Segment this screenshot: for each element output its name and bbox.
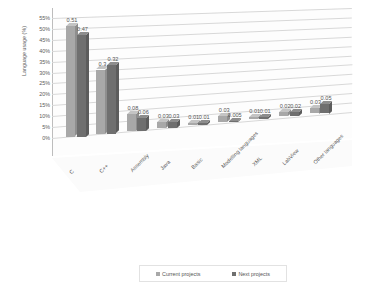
bar-front-face bbox=[188, 123, 197, 125]
bar-value-label: 0.03 bbox=[168, 113, 179, 119]
y-axis-tick-label: 40% bbox=[39, 48, 50, 54]
bar-value-label: 0.01 bbox=[188, 114, 199, 120]
y-axis-tick-label: 10% bbox=[39, 113, 50, 119]
y-axis-tick-label: 0% bbox=[42, 135, 50, 141]
bar-value-label: 0.02 bbox=[280, 103, 291, 109]
bar-value-label: 0.01 bbox=[249, 108, 260, 114]
y-axis-tick-label: 35% bbox=[39, 59, 50, 65]
bar-value-label: 0.01 bbox=[260, 108, 271, 114]
bar-front-face bbox=[218, 116, 227, 122]
bar-value-label: 0.01 bbox=[199, 114, 210, 120]
bar-side-face bbox=[146, 115, 149, 131]
bar-side-face bbox=[86, 32, 89, 137]
bar-front-face bbox=[320, 104, 329, 114]
bar-front-face bbox=[259, 117, 268, 119]
y-axis-tick-label: 5% bbox=[42, 124, 50, 130]
legend-item[interactable]: Current projects bbox=[156, 271, 200, 277]
bar-front-face bbox=[107, 65, 116, 133]
bar-value-label: 0.08 bbox=[127, 105, 138, 111]
bar-value-label: 0.32 bbox=[107, 56, 118, 62]
bar-value-label: 0.47 bbox=[77, 26, 88, 32]
bar-front-face bbox=[198, 123, 207, 125]
bar-value-label: 0.005 bbox=[228, 112, 242, 118]
bar-front-face bbox=[279, 112, 288, 116]
y-axis-tick-label: 30% bbox=[39, 70, 50, 76]
bar-front-face bbox=[66, 26, 75, 136]
bar-front-face bbox=[77, 35, 86, 137]
y-axis-tick-label: 20% bbox=[39, 91, 50, 97]
legend-item[interactable]: Next projects bbox=[232, 271, 269, 277]
bar-value-label: 0.03 bbox=[158, 113, 169, 119]
bar-front-face bbox=[249, 117, 258, 119]
legend-label: Current projects bbox=[162, 271, 200, 277]
y-axis-ticks: 0%5%10%15%20%25%30%35%40%45%50%55% bbox=[24, 8, 50, 156]
bar-front-face bbox=[290, 112, 299, 116]
bar-value-label: 0.02 bbox=[290, 103, 301, 109]
bar-value-label: 0.06 bbox=[138, 109, 149, 115]
bar-front-face bbox=[157, 122, 166, 128]
y-axis-tick-label: 45% bbox=[39, 37, 50, 43]
y-axis-tick-label: 55% bbox=[39, 15, 50, 21]
bar-front-face bbox=[168, 122, 177, 128]
y-axis-tick-label: 25% bbox=[39, 80, 50, 86]
y-axis-tick-label: 50% bbox=[39, 26, 50, 32]
bar-value-label: 0.05 bbox=[321, 95, 332, 101]
bar-value-label: 0.51 bbox=[67, 17, 78, 23]
bar-front-face bbox=[310, 108, 319, 114]
legend-swatch bbox=[156, 272, 160, 276]
legend-swatch bbox=[232, 272, 236, 276]
legend-label: Next projects bbox=[238, 271, 269, 277]
y-axis-tick-label: 15% bbox=[39, 102, 50, 108]
bar-value-label: 0.3 bbox=[99, 61, 107, 67]
chart-legend: Current projectsNext projects bbox=[139, 265, 287, 282]
bar-front-face bbox=[127, 114, 136, 131]
bar-side-face bbox=[116, 62, 119, 133]
bar-chart: Language usage (%) 0%5%10%15%20%25%30%35… bbox=[0, 0, 384, 300]
bar-series-container: 0.510.470.30.320.080.060.030.030.010.010… bbox=[52, 8, 352, 168]
